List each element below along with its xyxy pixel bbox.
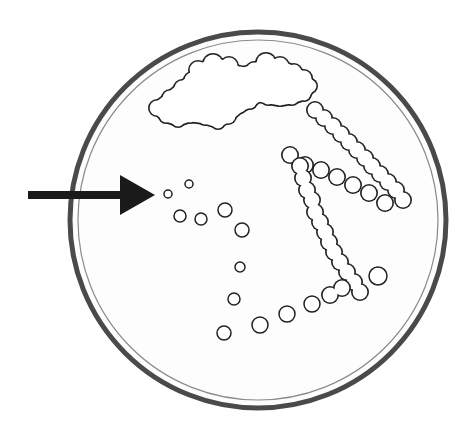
isolated-colony <box>217 326 231 340</box>
isolated-colony <box>228 293 240 305</box>
isolated-colony <box>195 213 207 225</box>
isolated-colony <box>369 267 387 285</box>
isolated-colony <box>304 296 320 312</box>
isolated-colony <box>235 262 245 272</box>
isolated-colony <box>218 203 232 217</box>
isolated-colony <box>235 223 249 237</box>
isolated-colony <box>252 317 268 333</box>
isolated-colony <box>174 210 186 222</box>
arrow-shaft <box>28 191 125 199</box>
isolated-colony <box>164 190 172 198</box>
isolated-colony <box>185 180 193 188</box>
diagram-canvas <box>0 0 463 426</box>
streak-plate-diagram <box>0 0 463 426</box>
isolated-colony <box>279 306 295 322</box>
